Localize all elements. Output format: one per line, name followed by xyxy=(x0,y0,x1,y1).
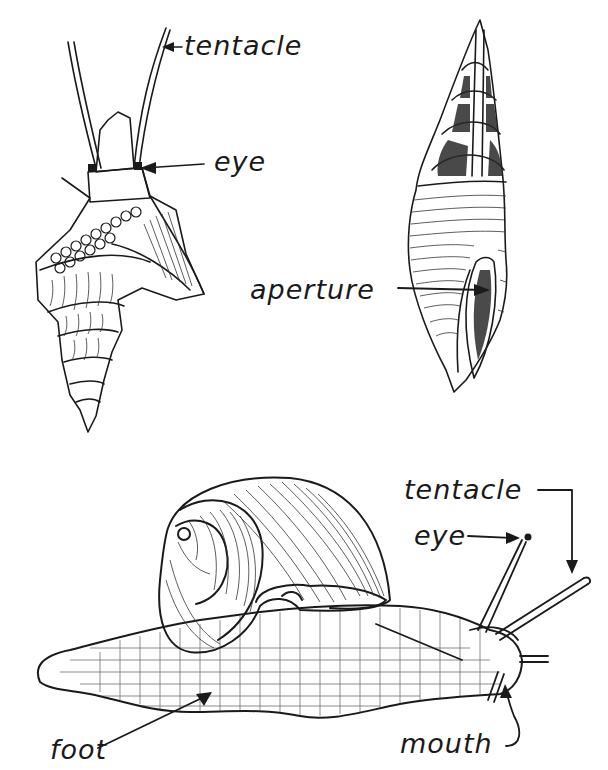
foot-label: foot xyxy=(50,736,107,763)
aperture-label: aperture xyxy=(250,276,375,303)
bottom-tentacle-label: tentacle xyxy=(404,476,522,503)
mouth-label: mouth xyxy=(400,730,493,757)
land-snail-illustration xyxy=(0,0,608,770)
snail-anatomy-diagram: tentacle eye aperture tentacle eye foot … xyxy=(0,0,608,770)
top-eye-label: eye xyxy=(214,148,266,175)
top-tentacle-label: tentacle xyxy=(184,32,302,59)
bottom-eye-label: eye xyxy=(414,522,466,549)
